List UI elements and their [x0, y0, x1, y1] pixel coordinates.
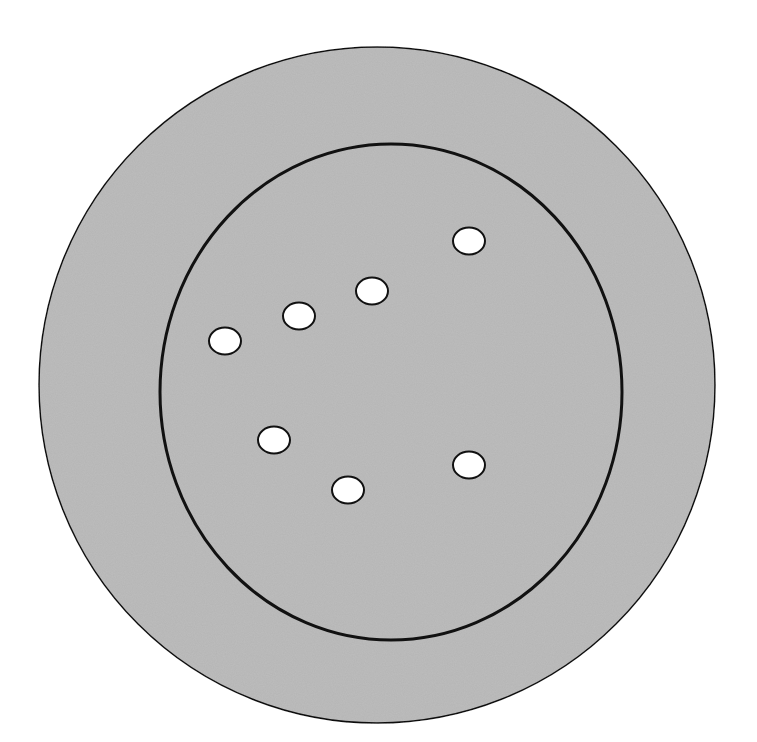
hole	[453, 452, 485, 479]
hole	[453, 228, 485, 255]
hole	[332, 477, 364, 504]
hole	[283, 303, 315, 330]
outer-disc	[39, 47, 715, 723]
hole	[356, 278, 388, 305]
hole	[209, 328, 241, 355]
hole	[258, 427, 290, 454]
disc-diagram	[0, 0, 757, 742]
